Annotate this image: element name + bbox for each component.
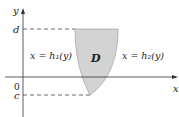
top-bound-label: d bbox=[13, 24, 19, 35]
region-label: D bbox=[90, 52, 101, 65]
left-curve-label: x = h₁(y) bbox=[30, 50, 72, 61]
x-axis-arrow-icon bbox=[172, 75, 178, 79]
region-diagram: y x 0 d c D x = h₁(y) x = h₂(y) bbox=[0, 0, 179, 117]
bottom-bound-label: c bbox=[14, 90, 20, 101]
y-axis-arrow-icon bbox=[21, 8, 25, 14]
right-curve-label: x = h₂(y) bbox=[122, 50, 164, 61]
y-axis-label: y bbox=[12, 5, 19, 16]
x-axis-label: x bbox=[173, 83, 179, 94]
